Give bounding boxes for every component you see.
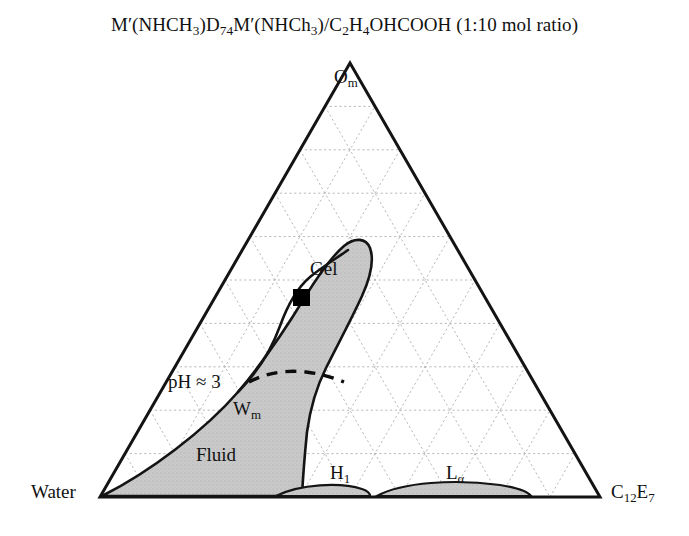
ph-annotation-text: pH ≈ 3 xyxy=(168,371,221,392)
region-label-wm-text: W xyxy=(233,398,251,419)
region-label-h1-sub: 1 xyxy=(344,471,350,486)
region-label-lalpha-text: L xyxy=(446,462,458,483)
sample-point-marker xyxy=(293,289,310,306)
region-label-fluid-text: Fluid xyxy=(196,444,236,465)
corner-label-water-text: Water xyxy=(31,481,76,502)
c12e7-c-sub: 12 xyxy=(624,490,637,505)
apex-label-text: O xyxy=(334,66,348,87)
c12e7-e-sub: 7 xyxy=(648,490,654,505)
region-label-wm-sub: m xyxy=(251,407,261,422)
c12e7-e: E xyxy=(637,481,649,502)
region-label-lalpha-sub: α xyxy=(458,471,465,486)
corner-label-water: Water xyxy=(31,481,76,503)
region-label-gel-text: Gel xyxy=(310,258,337,279)
region-label-fluid: Fluid xyxy=(196,444,236,466)
region-label-lalpha: Lα xyxy=(446,462,464,484)
ph-annotation-label: pH ≈ 3 xyxy=(168,371,221,393)
apex-label-om: Om xyxy=(334,66,358,88)
apex-label-sub: m xyxy=(348,75,358,90)
ternary-phase-diagram-figure: M′(NHCH3)D74M′(NHCh3)/C2H4OHCOOH (1:10 m… xyxy=(0,0,689,536)
corner-label-c12e7: C12E7 xyxy=(611,481,655,503)
region-label-h1-text: H xyxy=(330,462,344,483)
region-label-gel: Gel xyxy=(310,258,337,280)
region-label-wm: Wm xyxy=(233,398,261,420)
c12e7-c: C xyxy=(611,481,624,502)
region-label-h1: H1 xyxy=(330,462,350,484)
